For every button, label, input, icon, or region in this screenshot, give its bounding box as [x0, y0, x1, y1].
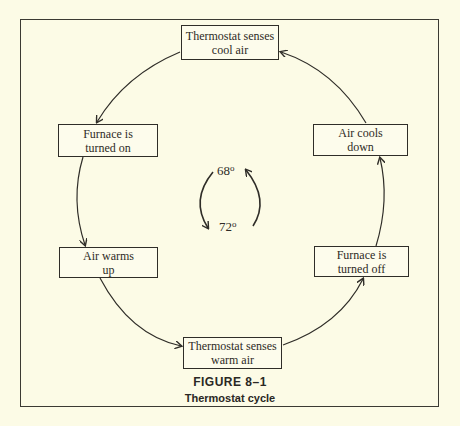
node-air-warms-up: Air warms up [59, 247, 158, 278]
node-air-cools-down: Air cools down [313, 124, 408, 156]
arrow-cools-to-cool-air [281, 52, 366, 123]
arrow-warm-air-to-furnace-off [283, 279, 363, 345]
center-arc-right [246, 170, 260, 226]
figure-title: Thermostat cycle [0, 392, 460, 404]
figure-number: FIGURE 8–1 [0, 375, 460, 389]
arrow-furnace-off-to-cools [376, 158, 384, 246]
arrow-cool-to-furnace-on [97, 52, 180, 122]
temp-68: 68o [217, 163, 235, 179]
center-arc-left [200, 172, 213, 228]
node-furnace-turned-off: Furnace is turned off [314, 246, 409, 277]
temp-72: 72o [219, 219, 237, 235]
arrow-warms-to-warm-air [100, 278, 181, 346]
arrow-furnace-on-to-warms [77, 157, 85, 245]
node-furnace-turned-on: Furnace is turned on [58, 124, 158, 157]
node-thermostat-senses-cool-air: Thermostat senses cool air [181, 25, 279, 60]
node-thermostat-senses-warm-air: Thermostat senses warm air [183, 337, 282, 369]
